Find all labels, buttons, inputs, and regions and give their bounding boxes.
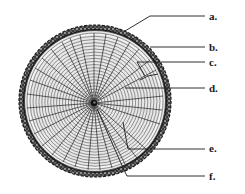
label-b: b. (209, 42, 218, 53)
pith (91, 100, 97, 106)
leader-line-a (125, 16, 205, 31)
tree-cross-section-figure (0, 0, 245, 194)
label-d: d. (209, 83, 218, 94)
label-c: c. (209, 57, 217, 68)
tree-cross-section-diagram: a. b. c. d. e. f. (0, 0, 245, 194)
label-a: a. (209, 11, 217, 22)
label-e: e. (209, 143, 217, 154)
label-f: f. (209, 171, 215, 182)
